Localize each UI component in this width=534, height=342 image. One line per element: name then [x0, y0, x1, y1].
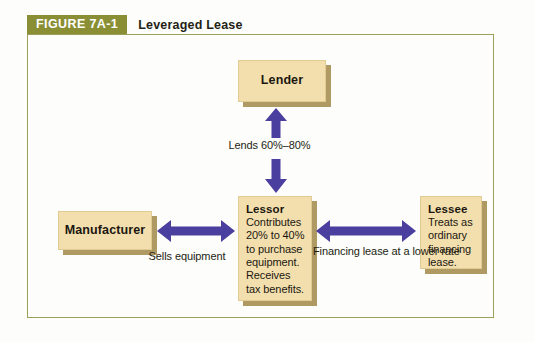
node-lender: Lender — [238, 60, 326, 102]
figure-number-badge: FIGURE 7A-1 — [27, 15, 127, 35]
edge-label-lends: Lends 60%–80% — [212, 139, 327, 152]
node-manufacturer-title: Manufacturer — [65, 223, 145, 238]
node-lessee: Lessee Treats as ordinary financing leas… — [420, 196, 482, 269]
arrow-manufacturer-lessor-icon — [157, 219, 235, 243]
figure-caption: Leveraged Lease — [127, 18, 242, 32]
figure-title-bar: FIGURE 7A-1 Leveraged Lease — [27, 14, 243, 35]
node-lessor: Lessor Contributes 20% to 40% to purchas… — [238, 196, 312, 301]
edge-label-financing-lease: Financing lease at a lower rate — [313, 245, 413, 258]
arrow-lessor-lessee-icon — [316, 219, 416, 243]
node-lessor-body: Contributes 20% to 40% to purchase equip… — [246, 216, 305, 296]
node-lessee-title: Lessee — [428, 202, 475, 216]
node-lessor-title: Lessor — [246, 202, 305, 216]
node-lessee-body: Treats as ordinary financing lease. — [428, 216, 475, 269]
node-manufacturer: Manufacturer — [58, 211, 152, 250]
arrow-up-to-lender-icon — [265, 108, 287, 138]
figure-container: FIGURE 7A-1 Leveraged Lease Lender Lesso… — [0, 0, 534, 342]
node-lender-title: Lender — [261, 73, 303, 88]
edge-label-sells-equipment: Sells equipment — [147, 250, 227, 263]
arrow-down-to-lessor-icon — [265, 159, 287, 193]
